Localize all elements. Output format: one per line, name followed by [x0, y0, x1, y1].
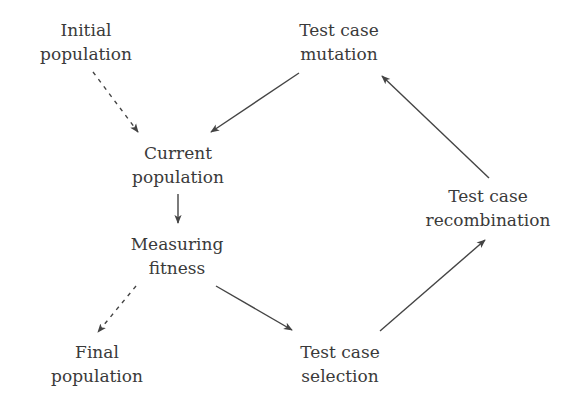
- node-current-line2: population: [132, 165, 224, 189]
- node-test-case-selection: Test case selection: [300, 340, 379, 388]
- arrow-mutation-to-current: [211, 73, 299, 132]
- arrow-initial-to-current: [93, 72, 138, 132]
- node-final-line1: Final: [51, 340, 143, 364]
- node-mutation-line2: mutation: [299, 42, 378, 66]
- node-test-case-recombination: Test case recombination: [426, 184, 551, 232]
- node-initial-line2: population: [40, 42, 132, 66]
- node-final-line2: population: [51, 364, 143, 388]
- node-current-population: Current population: [132, 141, 224, 189]
- node-mutation-line1: Test case: [299, 18, 378, 42]
- node-current-line1: Current: [132, 141, 224, 165]
- genetic-algorithm-diagram: Initial population Test case mutation Cu…: [0, 0, 580, 406]
- node-test-case-mutation: Test case mutation: [299, 18, 378, 66]
- node-initial-line1: Initial: [40, 18, 132, 42]
- node-final-population: Final population: [51, 340, 143, 388]
- arrow-fitness-to-selection: [216, 286, 292, 330]
- node-selection-line1: Test case: [300, 340, 379, 364]
- node-recombination-line2: recombination: [426, 208, 551, 232]
- node-fitness-line1: Measuring: [131, 232, 224, 256]
- node-measuring-fitness: Measuring fitness: [131, 232, 224, 280]
- arrow-recombination-to-mutation: [382, 76, 489, 178]
- node-initial-population: Initial population: [40, 18, 132, 66]
- node-selection-line2: selection: [300, 364, 379, 388]
- arrow-selection-to-recombination: [380, 240, 485, 331]
- node-fitness-line2: fitness: [131, 256, 224, 280]
- arrow-fitness-to-final: [98, 286, 136, 332]
- node-recombination-line1: Test case: [426, 184, 551, 208]
